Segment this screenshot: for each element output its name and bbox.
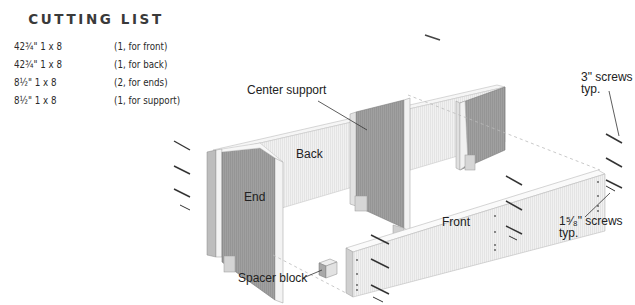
leader-3in-screws xyxy=(609,91,619,136)
label-3in-screws-typ: typ. xyxy=(581,83,600,96)
label-front: Front xyxy=(442,216,470,229)
label-spacer-block: Spacer block xyxy=(238,272,307,285)
label-center-support: Center support xyxy=(247,84,326,97)
label-back: Back xyxy=(296,148,323,161)
label-158-screws-typ: typ. xyxy=(559,227,578,240)
screw-icon xyxy=(425,35,440,40)
center-support-panel xyxy=(350,98,410,240)
screws-left xyxy=(174,141,190,210)
screws-front-right xyxy=(606,134,622,191)
spacer-block xyxy=(319,259,337,278)
label-end: End xyxy=(244,191,265,204)
